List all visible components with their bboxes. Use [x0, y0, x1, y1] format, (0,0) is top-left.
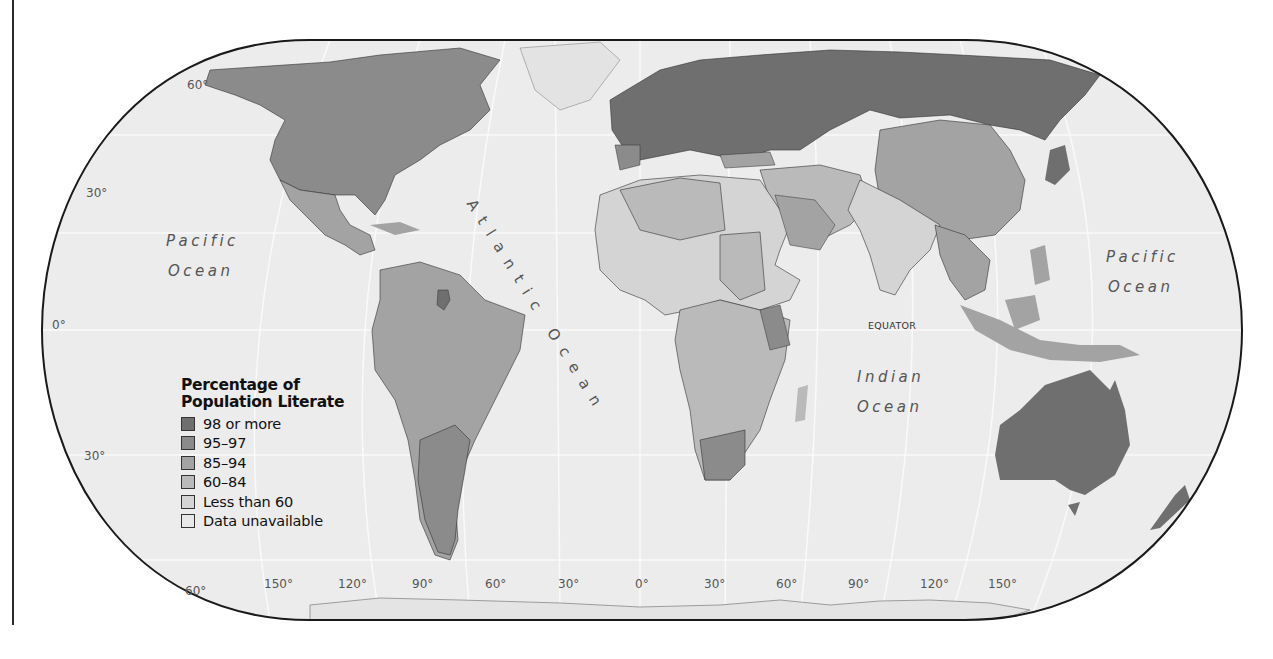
world-map: [0, 0, 1273, 659]
legend-label: Less than 60: [203, 494, 293, 510]
legend-title-line1: Percentage of: [181, 377, 344, 394]
lon-label: 150°: [988, 577, 1017, 591]
legend: Percentage of Population Literate 98 or …: [181, 377, 344, 531]
legend-swatch-98-plus: [181, 417, 195, 431]
legend-item: 60–84: [181, 473, 344, 493]
legend-label: 60–84: [203, 474, 246, 490]
lon-label: 90°: [848, 577, 869, 591]
lat-30n-label: 30°: [86, 186, 107, 200]
legend-item: Data unavailable: [181, 512, 344, 532]
lat-0-label: 0°: [52, 318, 66, 332]
pacific-ocean-west-label-1: Pacific: [166, 232, 239, 250]
lon-label: 120°: [920, 577, 949, 591]
legend-item: 85–94: [181, 453, 344, 473]
lon-label: 90°: [412, 577, 433, 591]
lon-label: 0°: [635, 577, 649, 591]
legend-label: 98 or more: [203, 416, 281, 432]
turkey: [720, 152, 775, 168]
pacific-ocean-east-label-2: Ocean: [1108, 278, 1173, 296]
legend-item: 98 or more: [181, 414, 344, 434]
legend-swatch-less-than-60: [181, 495, 195, 509]
indian-ocean-label-2: Ocean: [857, 398, 922, 416]
legend-label: 85–94: [203, 455, 246, 471]
legend-title-line2: Population Literate: [181, 394, 344, 411]
equator-label: EQUATOR: [868, 320, 916, 331]
lat-30s-label: 30°: [84, 449, 105, 463]
lon-label: 120°: [338, 577, 367, 591]
pacific-ocean-west-label-2: Ocean: [168, 262, 233, 280]
legend-swatch-data-unavailable: [181, 514, 195, 528]
indian-ocean-label-1: Indian: [857, 368, 924, 386]
legend-item: Less than 60: [181, 492, 344, 512]
legend-swatch-85-94: [181, 456, 195, 470]
legend-label: Data unavailable: [203, 513, 323, 529]
legend-swatch-60-84: [181, 475, 195, 489]
lat-60n-label: 60°: [187, 78, 208, 92]
lon-label: 30°: [558, 577, 579, 591]
lon-label: 60°: [776, 577, 797, 591]
legend-label: 95–97: [203, 435, 246, 451]
lon-label: 60°: [485, 577, 506, 591]
lon-label: 30°: [704, 577, 725, 591]
lat-60s-label: 60°: [185, 584, 206, 598]
legend-item: 95–97: [181, 434, 344, 454]
pacific-ocean-east-label-1: Pacific: [1106, 248, 1179, 266]
lon-label: 150°: [264, 577, 293, 591]
legend-swatch-95-97: [181, 436, 195, 450]
